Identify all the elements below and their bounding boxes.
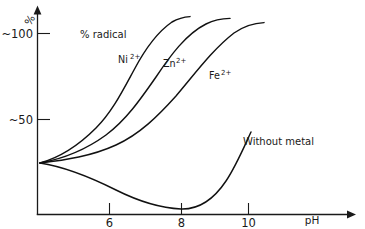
y-tick-label-50: ~50 [9,113,33,127]
y-axis-group [34,6,50,216]
x-axis-arrowhead [347,211,356,219]
chart-canvas: % ~100 ~50 6 8 10 pH % radical Ni 2+ Zn … [0,0,365,229]
curve-label-zn-superscript: 2+ [176,57,186,65]
x-tick-label-8: 8 [178,216,185,229]
curve-label-zn2plus: Zn 2+ [163,57,186,70]
y-axis-arrowhead [34,6,42,15]
curve-label-ni-base: Ni [118,54,128,65]
x-axis-label: pH [305,214,320,226]
y-axis-label: % [22,13,37,28]
plot-annotation-radical: % radical [80,29,126,40]
x-tick-label-10: 10 [241,216,256,229]
curve-zn2plus [40,18,230,163]
curve-without-metal [40,132,251,209]
curve-label-zn-base: Zn [163,58,176,69]
curve-label-fe-base: Fe [209,70,220,81]
x-tick-label-6: 6 [106,216,113,229]
curve-label-fe-superscript: 2+ [221,69,231,77]
curve-label-fe2plus: Fe 2+ [209,69,231,82]
curve-label-ni-superscript: 2+ [130,53,140,61]
chart-figure: % ~100 ~50 6 8 10 pH % radical Ni 2+ Zn … [0,0,365,229]
y-tick-label-100: ~100 [1,27,33,41]
curve-label-without-metal: Without metal [243,136,314,147]
curve-fe2plus [40,23,264,163]
